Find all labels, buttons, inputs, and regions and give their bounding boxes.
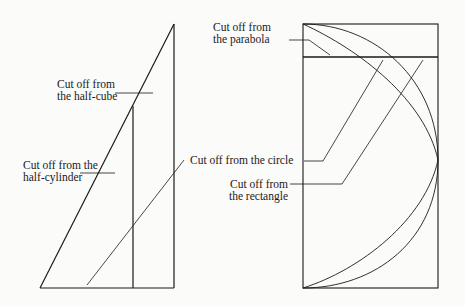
right-rectangle: [303, 24, 438, 288]
half-cube-label-line1: Cut off from: [57, 78, 117, 90]
half-cube-label: Cut off from the half-cube: [57, 78, 117, 102]
parabola-label-line1: Cut off from: [213, 21, 271, 33]
half-cylinder-label-line2: half-cylinder: [23, 171, 98, 183]
rectangle-label: Cut off from the rectangle: [228, 178, 288, 202]
diagram-canvas: Cut off from the half-cube Cut off from …: [0, 0, 465, 307]
circle-label: Cut off from the circle: [190, 154, 293, 166]
circle-leader-left: [87, 160, 184, 285]
parabola-leader: [289, 40, 330, 55]
circle-label-text: Cut off from the circle: [190, 154, 293, 166]
half-cube-label-line2: the half-cube: [57, 90, 117, 102]
rectangle-label-line1: Cut off from: [228, 178, 288, 190]
parabola-label-line2: the parabola: [213, 33, 271, 45]
rectangle-label-line2: the rectangle: [228, 190, 288, 202]
half-cylinder-label-line1: Cut off from the: [23, 159, 98, 171]
parabola-label: Cut off from the parabola: [213, 21, 271, 45]
half-cylinder-label: Cut off from the half-cylinder: [23, 159, 98, 183]
left-triangle: [40, 24, 174, 288]
rectangle-leader: [290, 60, 423, 184]
circle-leader-right: [304, 60, 383, 161]
